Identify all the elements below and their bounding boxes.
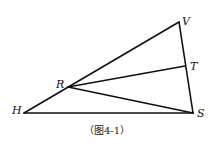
geometry-figure: V T R H S （图4-1） [0, 0, 215, 150]
label-T: T [190, 60, 199, 73]
segment-HV [24, 22, 179, 113]
label-R: R [55, 78, 64, 91]
figure-caption: （图4-1） [84, 125, 130, 136]
label-S: S [197, 107, 205, 120]
label-V: V [182, 15, 191, 28]
segment-RS [68, 87, 193, 113]
label-H: H [11, 104, 22, 117]
